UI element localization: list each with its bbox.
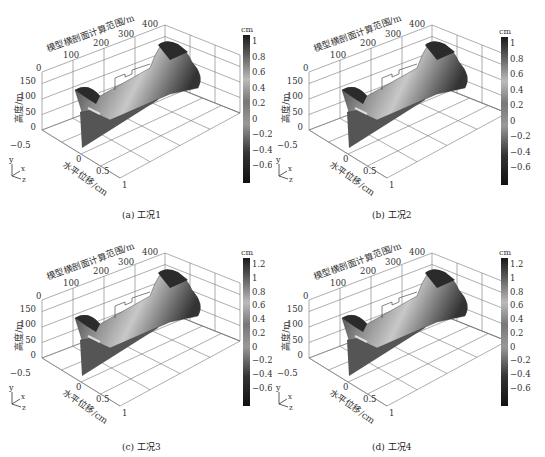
colorbar: cm10.80.60.40.20−0.2−0.4−0.6 [499,27,531,185]
colorbar-scale [501,258,508,406]
panel-caption: (d) 工况4 [372,440,411,453]
colorbar-tick-9: −0.6 [510,383,531,393]
colorbar-tick-8: −0.4 [510,369,531,379]
colorbar-tick-0: 1 [252,36,257,46]
height-tick-150: 150 [287,304,303,314]
section-tick-200: 200 [360,266,376,276]
triad-x: x [21,165,25,173]
height-axis-label: 高度/m [280,93,291,123]
disp-tick-1: 0 [76,382,81,392]
axis-triad-icon: yxz [8,383,26,412]
height-tick-150: 150 [287,76,303,86]
disp-tick-2: 0.5 [96,166,110,176]
colorbar-tick-0: 1.2 [510,259,524,269]
colorbar-tick-2: 0.8 [510,287,524,297]
colorbar-tick-1: 1 [510,273,515,283]
triad-x: x [288,393,292,401]
triad-x: x [21,393,25,401]
disp-tick-3: 1 [389,408,394,418]
triad-z: z [289,404,293,412]
section-tick-0: 0 [36,291,41,301]
triad-y: y [275,155,281,164]
section-tick-200: 200 [93,266,109,276]
colorbar-tick-2: 0.6 [252,67,266,77]
section-tick-400: 400 [142,19,158,29]
disp-tick-0: −0.5 [277,140,298,150]
panel-caption: (c) 工况3 [122,440,161,453]
section-tick-0: 0 [36,63,41,73]
section-tick-100: 100 [330,50,346,60]
colorbar-unit: cm [241,25,253,34]
height-tick-50: 50 [25,335,36,345]
section-tick-300: 300 [385,257,401,267]
height-axis-label: 高度/m [13,321,24,351]
height-tick-0: 0 [298,350,303,360]
colorbar-tick-6: 0 [510,342,515,352]
section-tick-400: 400 [409,19,425,29]
colorbar: cm10.80.60.40.20−0.2−0.4−0.6 [241,25,272,183]
colorbar-tick-3: 0.6 [510,300,524,310]
panel-caption: (b) 工况2 [372,208,411,221]
section-tick-0: 0 [303,63,308,73]
height-tick-0: 0 [31,350,36,360]
disp-tick-2: 0.5 [363,394,377,404]
section-tick-300: 300 [118,257,134,267]
disp-tick-1: 0 [343,382,348,392]
height-tick-150: 150 [20,76,36,86]
colorbar-tick-7: −0.4 [510,147,531,157]
colorbar-tick-6: −0.2 [510,131,531,141]
colorbar-tick-2: 0.6 [510,69,524,79]
colorbar-tick-1: 0.8 [252,52,266,62]
colorbar-tick-0: 1 [510,38,515,48]
colorbar-tick-6: 0 [252,342,257,352]
triad-z: z [22,404,26,412]
colorbar-tick-5: 0.2 [252,328,266,338]
colorbar-tick-2: 0.8 [252,287,266,297]
colorbar-unit: cm [499,27,511,36]
section-tick-200: 200 [93,38,109,48]
colorbar-scale [501,37,508,185]
colorbar-tick-1: 0.8 [510,54,524,64]
colorbar-tick-0: 1.2 [252,259,266,269]
plot-3d: 0100200300400模型横剖面计算范围/m050100150高度/m−0.… [275,240,507,426]
section-tick-100: 100 [63,278,79,288]
disp-tick-1: 0 [76,154,81,164]
colorbar-tick-8: −0.6 [252,160,272,170]
section-tick-400: 400 [409,247,425,257]
section-tick-0: 0 [303,291,308,301]
panel-b: 0100200300400模型横剖面计算范围/m050100150高度/m−0.… [272,0,544,228]
height-tick-50: 50 [292,107,303,117]
triad-x: x [288,165,292,173]
height-tick-50: 50 [292,335,303,345]
triad-z: z [22,176,26,184]
height-tick-0: 0 [298,122,303,132]
triad-y: y [275,383,281,392]
colorbar-unit: cm [241,248,253,257]
section-tick-200: 200 [360,38,376,48]
panel-d: 0100200300400模型横剖面计算范围/m050100150高度/m−0.… [272,228,544,456]
section-tick-400: 400 [142,247,158,257]
triad-z: z [289,176,293,184]
colorbar-tick-7: −0.4 [252,145,272,155]
colorbar-tick-5: 0 [252,114,257,124]
colorbar-tick-4: 0.4 [510,314,524,324]
section-tick-300: 300 [118,29,134,39]
colorbar: cm1.210.80.60.40.20−0.2−0.4−0.6 [241,248,272,406]
height-tick-0: 0 [31,122,36,132]
disp-tick-3: 1 [122,180,127,190]
disp-tick-2: 0.5 [363,166,377,176]
triad-y: y [8,155,14,164]
panel-c: 0100200300400模型横剖面计算范围/m050100150高度/m−0.… [0,228,272,456]
disp-tick-2: 0.5 [96,394,110,404]
triad-y: y [8,383,14,392]
colorbar-tick-9: −0.6 [252,383,272,393]
colorbar-tick-7: −0.2 [510,355,531,365]
disp-tick-3: 1 [389,180,394,190]
disp-tick-1: 0 [343,154,348,164]
height-tick-150: 150 [20,304,36,314]
colorbar-tick-5: 0.2 [510,328,524,338]
colorbar-tick-8: −0.6 [510,162,531,172]
colorbar-tick-4: 0.4 [252,314,266,324]
colorbar-tick-3: 0.4 [252,83,266,93]
colorbar-tick-3: 0.4 [510,85,524,95]
